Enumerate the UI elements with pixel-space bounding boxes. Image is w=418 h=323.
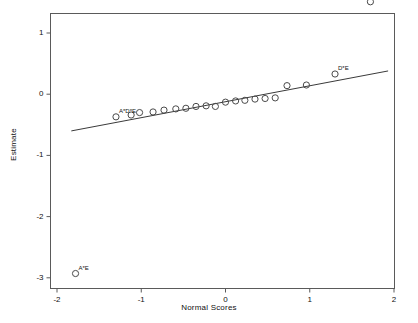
data-point — [332, 71, 338, 77]
data-point — [113, 114, 119, 120]
data-point — [272, 95, 278, 101]
data-point — [284, 83, 290, 89]
data-point — [150, 109, 156, 115]
data-point — [262, 95, 268, 101]
reference-fit-line — [71, 71, 388, 131]
point-label: D*E — [338, 65, 349, 71]
plot-frame — [51, 14, 395, 289]
x-tick-label: 0 — [214, 295, 238, 304]
plot-canvas — [0, 0, 418, 323]
data-point — [233, 98, 239, 104]
data-point — [367, 0, 373, 5]
point-label: A*D*E — [119, 108, 136, 114]
x-axis-title: Normal Scores — [0, 303, 418, 312]
data-point — [72, 270, 78, 276]
data-point — [136, 109, 142, 115]
x-tick-label: 1 — [298, 295, 322, 304]
data-point — [161, 107, 167, 113]
data-point — [252, 96, 258, 102]
y-tick-label: -2 — [24, 212, 44, 221]
y-axis-title: Estimate — [9, 105, 18, 185]
normal-probability-plot: Normal Scores Estimate -2-1012 10-1-2-3 … — [0, 0, 418, 323]
x-tick-label: -1 — [129, 295, 153, 304]
y-tick-label: 1 — [24, 28, 44, 37]
data-point — [212, 103, 218, 109]
x-tick-label: -2 — [45, 295, 69, 304]
data-point — [303, 82, 309, 88]
point-label: A*E — [79, 265, 89, 271]
y-tick-label: 0 — [24, 89, 44, 98]
y-tick-label: -3 — [24, 273, 44, 282]
y-tick-label: -1 — [24, 150, 44, 159]
x-tick-label: 2 — [382, 295, 406, 304]
data-point — [183, 105, 189, 111]
